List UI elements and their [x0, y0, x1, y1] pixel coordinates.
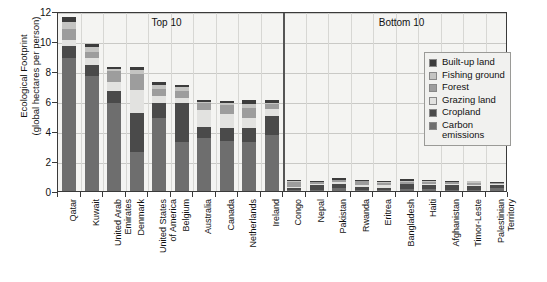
- bar-segment: [152, 103, 166, 118]
- bar-segment: [355, 190, 369, 191]
- bar-segment: [130, 113, 144, 152]
- bar-0: [62, 17, 76, 191]
- bar-5: [175, 85, 189, 191]
- x-tick-mark: [282, 192, 283, 197]
- bar-segment: [197, 103, 211, 110]
- bar-12: [332, 178, 346, 191]
- bar-segment: [85, 58, 99, 65]
- x-tick-label: Rwanda: [361, 199, 371, 282]
- x-tick-label: Palestinian Territory: [496, 199, 516, 282]
- x-tick-mark: [462, 192, 463, 197]
- bar-segment: [152, 89, 166, 96]
- bar-3: [130, 67, 144, 191]
- legend-item: Fishing ground: [429, 70, 505, 81]
- x-tick-label: Australia: [203, 199, 213, 282]
- x-tick-mark: [440, 192, 441, 197]
- x-tick-label: Haiti: [428, 199, 438, 282]
- bar-2: [107, 67, 121, 191]
- legend-item: Built-up land: [429, 57, 505, 68]
- y-tick-label: 10: [29, 37, 51, 48]
- gridline-vertical: [261, 13, 262, 191]
- gridline-vertical: [216, 13, 217, 191]
- legend-label: Grazing land: [442, 95, 496, 106]
- bar-segment: [85, 76, 99, 192]
- bar-segment: [107, 82, 121, 91]
- x-tick-mark: [192, 192, 193, 197]
- legend-item: Carbon emissions: [429, 120, 505, 141]
- x-tick-mark: [125, 192, 126, 197]
- y-tick-label: 4: [29, 127, 51, 138]
- bar-segment: [107, 91, 121, 103]
- x-tick-label: Qatar: [68, 199, 78, 282]
- bar-segment: [220, 114, 234, 128]
- bar-7: [220, 101, 234, 191]
- legend-item: Forest: [429, 82, 505, 93]
- legend-swatch-icon: [429, 122, 437, 130]
- x-tick-label: United States of America: [158, 199, 178, 282]
- y-tick-label: 0: [29, 187, 51, 198]
- bar-17: [445, 181, 459, 191]
- x-tick-mark: [170, 192, 171, 197]
- gridline-vertical: [81, 13, 82, 191]
- gridline-vertical: [171, 13, 172, 191]
- legend-label: Forest: [442, 82, 469, 93]
- x-tick-label: Pakistan: [338, 199, 348, 282]
- bar-segment: [242, 108, 256, 119]
- bar-segment: [107, 71, 121, 81]
- gridline-vertical: [193, 13, 194, 191]
- x-tick-label: Kuwait: [91, 199, 101, 282]
- x-tick-label: Eritrea: [383, 199, 393, 282]
- bar-segment: [332, 188, 346, 191]
- bar-10: [287, 180, 301, 191]
- legend: Built-up landFishing groundForestGrazing…: [424, 52, 511, 146]
- bar-segment: [400, 189, 414, 191]
- bar-segment: [175, 142, 189, 191]
- gridline-vertical: [306, 13, 307, 191]
- x-tick-label: Ireland: [271, 199, 281, 282]
- bar-14: [377, 181, 391, 191]
- x-tick-mark: [260, 192, 261, 197]
- gridline-vertical: [148, 13, 149, 191]
- bar-segment: [265, 135, 279, 191]
- y-axis-title: Ecological Footprint (global hectares pe…: [18, 0, 42, 166]
- gridline-vertical: [373, 13, 374, 191]
- bar-18: [467, 181, 481, 192]
- x-tick-label: Bangladesh: [406, 199, 416, 282]
- x-tick-mark: [237, 192, 238, 197]
- gridline-vertical: [126, 13, 127, 191]
- x-tick-mark: [327, 192, 328, 197]
- x-tick-mark: [57, 192, 58, 197]
- bar-segment: [62, 58, 76, 191]
- bar-segment: [197, 138, 211, 191]
- y-tick-label: 8: [29, 67, 51, 78]
- legend-swatch-icon: [429, 84, 437, 92]
- bar-segment: [175, 103, 189, 142]
- bar-segment: [310, 190, 324, 191]
- legend-label: Cropland: [442, 107, 481, 118]
- x-tick-mark: [417, 192, 418, 197]
- bar-segment: [467, 190, 481, 192]
- bar-15: [400, 179, 414, 191]
- x-tick-label: Afghanistan: [451, 199, 461, 282]
- legend-label: Built-up land: [442, 57, 495, 68]
- bar-11: [310, 181, 324, 191]
- x-tick-mark: [372, 192, 373, 197]
- bar-9: [265, 100, 279, 191]
- bar-segment: [242, 142, 256, 192]
- x-tick-mark: [485, 192, 486, 197]
- gridline-vertical: [418, 13, 419, 191]
- bar-segment: [62, 29, 76, 40]
- gridline-vertical: [328, 13, 329, 191]
- bar-segment: [152, 118, 166, 191]
- chart-root: Ecological Footprint (global hectares pe…: [0, 0, 547, 282]
- x-tick-mark: [80, 192, 81, 197]
- legend-label: Carbon emissions: [442, 120, 484, 141]
- x-tick-label: Canada: [226, 199, 236, 282]
- bar-segment: [445, 190, 459, 191]
- legend-swatch-icon: [429, 59, 437, 67]
- bar-segment: [220, 141, 234, 191]
- bar-segment: [130, 90, 144, 113]
- bar-segment: [62, 22, 76, 30]
- annotation-top10: Top 10: [152, 17, 182, 28]
- bar-segment: [197, 110, 211, 127]
